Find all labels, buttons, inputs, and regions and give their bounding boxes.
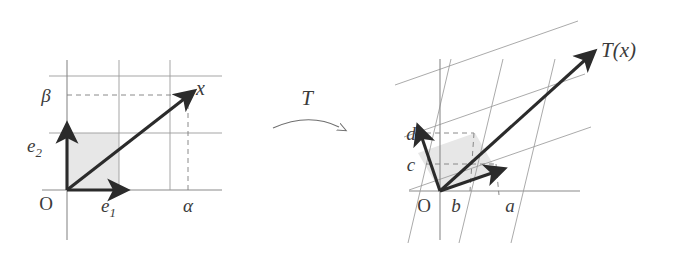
- transform-label-T: T: [301, 86, 314, 110]
- origin-label-right: O: [417, 195, 431, 216]
- component-label-a: a: [505, 195, 515, 216]
- basis-label-e1-subscript: 1: [109, 205, 115, 220]
- basis-label-e2: e2: [27, 135, 42, 160]
- linear-transformation-figure: O e1 e2 x α β T: [0, 0, 681, 254]
- basis-label-e1: e1: [101, 195, 116, 220]
- unit-square-shaded-region: [67, 133, 119, 190]
- basis-label-e2-text: e: [27, 135, 35, 156]
- vector-label-x: x: [195, 77, 205, 99]
- grid-line-steep-3: [511, 59, 555, 243]
- image-vector-label-Tx: T(x): [601, 38, 636, 62]
- left-panel-group: O e1 e2 x α β: [27, 60, 222, 240]
- origin-label-left: O: [39, 193, 53, 214]
- component-label-d: d: [406, 123, 416, 144]
- component-label-b: b: [451, 195, 461, 216]
- axis-tick-label-beta: β: [40, 85, 51, 106]
- transform-curve-arrow: [273, 120, 339, 128]
- component-label-c: c: [407, 154, 416, 175]
- vector-T-x: [440, 60, 585, 191]
- basis-label-e2-subscript: 2: [35, 145, 42, 160]
- basis-label-e1-text: e: [101, 195, 109, 216]
- grid-line-shallow-1: [395, 21, 578, 85]
- right-panel-group: O b a c d T(x): [395, 21, 636, 243]
- transform-arrow-group: T: [273, 86, 339, 128]
- axis-tick-label-alpha: α: [183, 195, 194, 216]
- dashed-guide-a: [496, 164, 499, 195]
- diagram-canvas: O e1 e2 x α β T: [0, 0, 681, 254]
